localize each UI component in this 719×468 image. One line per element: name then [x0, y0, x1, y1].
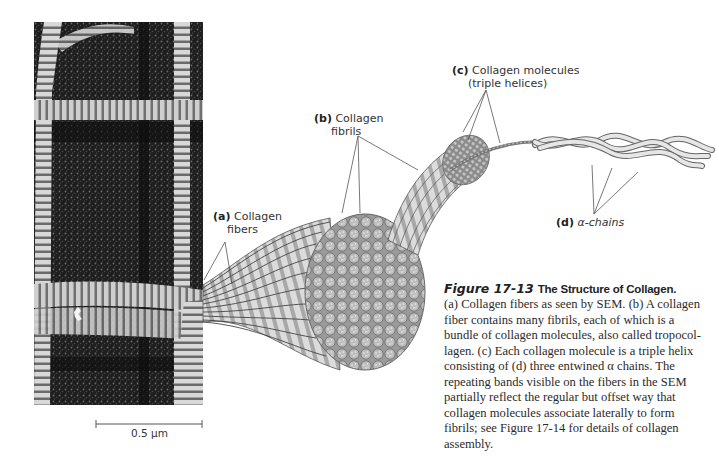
label-d-alpha-chains: (d) α-chains — [556, 216, 624, 229]
figure-caption: Figure 17-13 The Structure of Collagen. … — [444, 281, 716, 452]
caption-line: repeating bands visible on the fibers in… — [444, 375, 716, 391]
label-d-letter: (d) — [556, 216, 574, 229]
caption-line: fiber contains many fibrils, each of whi… — [444, 313, 716, 329]
caption-line: fibrils; see Figure 17-14 for details of… — [444, 421, 716, 437]
label-c-letter: (c) — [452, 64, 469, 77]
label-a-line2: fibers — [227, 223, 258, 236]
label-b-line1: Collagen — [335, 112, 383, 125]
caption-line: partially reflect the regular but offset… — [444, 390, 716, 406]
label-c-line1: Collagen molecules — [472, 64, 579, 77]
label-c-collagen-molecules: (c) Collagen molecules — [452, 64, 579, 77]
label-b-collagen-fibrils: (b) Collagen — [314, 112, 383, 125]
caption-line: consisting of (d) three entwined α chain… — [444, 359, 716, 375]
label-a-collagen-fibers: (a) Collagen — [213, 210, 282, 223]
caption-figure-number: Figure 17-13 — [444, 281, 534, 296]
caption-body: (a) Collagen fibers as seen by SEM. (b) … — [444, 297, 716, 452]
label-a-letter: (a) — [213, 210, 230, 223]
label-b-letter: (b) — [314, 112, 332, 125]
caption-line: collagen molecules associate laterally t… — [444, 406, 716, 422]
caption-line: lagen. (c) Each collagen molecule is a t… — [444, 344, 716, 360]
caption-line: assembly. — [444, 437, 716, 453]
label-d-text: α-chains — [577, 216, 624, 229]
caption-title-text: The Structure of Collagen. — [538, 283, 677, 295]
label-b-line2: fibrils — [331, 125, 361, 138]
caption-title: Figure 17-13 The Structure of Collagen. — [444, 281, 716, 297]
label-a-line1: Collagen — [234, 210, 282, 223]
caption-line: (a) Collagen fibers as seen by SEM. (b) … — [444, 297, 716, 313]
label-c-line2: (triple helices) — [468, 77, 547, 90]
caption-line: bundle of collagen molecules, also calle… — [444, 328, 716, 344]
